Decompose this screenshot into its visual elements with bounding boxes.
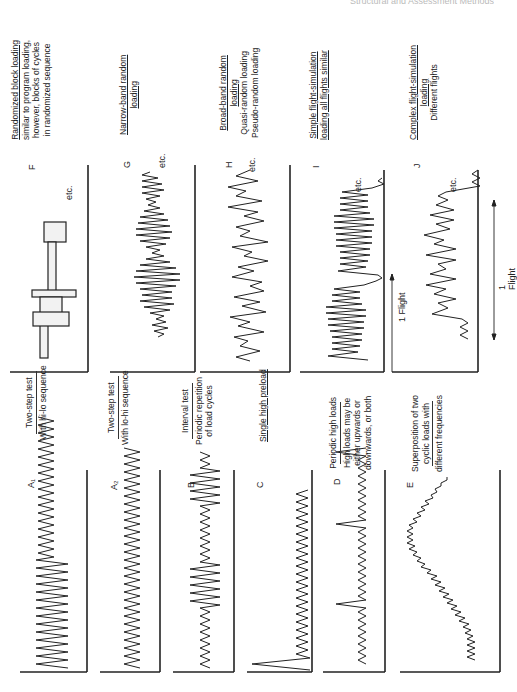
panel-B-letter: B (186, 482, 196, 488)
panel-C-letter: C (255, 482, 265, 489)
panel-H-etc: etc. (247, 157, 257, 172)
panel-J-caption: Complex flight-simulation loading Differ… (408, 45, 440, 140)
panel-C-caption: Single high preload (258, 369, 269, 442)
panel-C-wave (252, 490, 310, 670)
panel-J-wave (424, 170, 496, 340)
panel-F-blocks (32, 222, 76, 358)
panel-D-caption: Periodic high loads High loads may be ei… (328, 396, 373, 470)
panel-B-caption: Interval test Periodic repetition of loa… (180, 377, 215, 445)
panel-G-wave (134, 172, 180, 337)
panel-J-etc: etc. (448, 177, 458, 192)
panel-H-letter: H (224, 162, 234, 169)
panel-D-letter: D (332, 479, 342, 486)
panel-I-span-label: 1 Flight (397, 292, 407, 322)
panel-H-wave (228, 170, 268, 361)
panel-A1-letter: A₁ (26, 479, 36, 488)
panel-J-span-label: 1 Flight (497, 268, 517, 290)
panel-A1-caption: Two-step test With hi-lo sequence (24, 365, 48, 440)
panel-I-etc: etc. (353, 177, 363, 192)
panel-F-title: Randomized block loading (10, 40, 20, 140)
panel-G-caption: Narrow-band random loading (118, 55, 139, 135)
panel-H-caption: Broad-band random loading Quasi-random l… (218, 48, 260, 138)
panel-F-etc: etc. (64, 185, 74, 200)
panel-G-etc: etc. (157, 153, 167, 168)
panel-E-letter: E (405, 482, 415, 488)
panel-A2-wave (124, 448, 140, 668)
panel-G-letter: G (122, 161, 132, 168)
panel-A2-letter: A₂ (109, 481, 119, 491)
panel-E-caption: Superposition of two cyclic loads with d… (410, 395, 445, 472)
panel-A1-wave (36, 417, 68, 668)
panel-F-letter: F (27, 165, 37, 171)
panel-F-caption: Randomized block loading similar to prog… (10, 40, 52, 140)
panel-A2-caption: Two-step test With lo-hi sequence (106, 370, 130, 445)
panel-E-wave (407, 477, 475, 660)
panel-I-letter: I (311, 165, 321, 168)
panel-J-letter: J (412, 164, 422, 169)
panel-I-caption: Simple flight-simulation loading all fli… (308, 50, 329, 140)
